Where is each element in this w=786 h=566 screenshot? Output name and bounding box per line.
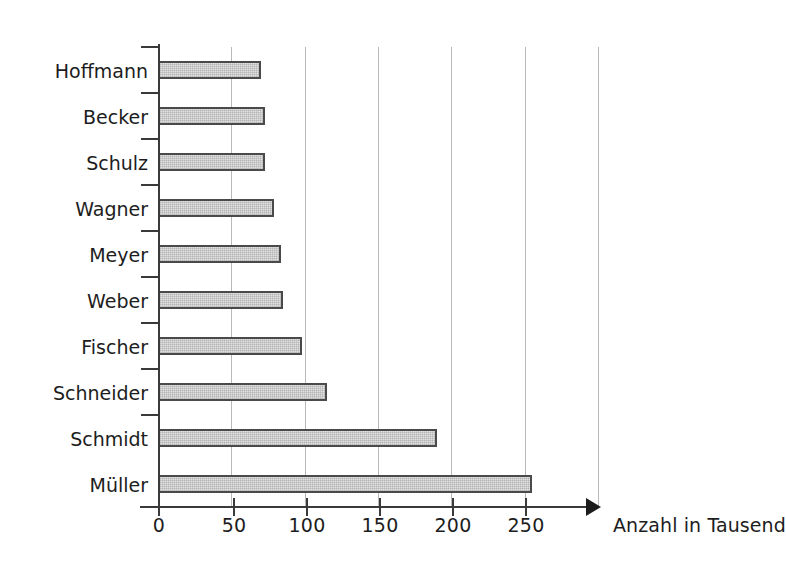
x-axis-tick-label-250: 250 bbox=[486, 514, 566, 536]
bar-row bbox=[158, 415, 598, 461]
bar-row bbox=[158, 369, 598, 415]
bar-row bbox=[158, 139, 598, 185]
bar-meyer bbox=[158, 245, 281, 263]
category-label-fischer: Fischer bbox=[0, 336, 148, 358]
bar-weber bbox=[158, 291, 283, 309]
category-label-meyer: Meyer bbox=[0, 244, 148, 266]
y-axis-tick bbox=[141, 92, 159, 94]
bar-schulz bbox=[158, 153, 265, 171]
bar-wagner bbox=[158, 199, 274, 217]
category-label-becker: Becker bbox=[0, 106, 148, 128]
category-label-weber: Weber bbox=[0, 290, 148, 312]
x-axis-arrow-icon bbox=[586, 498, 601, 516]
bar-schneider bbox=[158, 383, 327, 401]
category-label-mueller: Müller bbox=[0, 474, 148, 496]
y-axis-tick bbox=[141, 46, 159, 48]
bar-row bbox=[158, 185, 598, 231]
category-label-schmidt: Schmidt bbox=[0, 428, 148, 450]
gridline-300 bbox=[598, 47, 599, 507]
y-axis-tick bbox=[141, 414, 159, 416]
x-axis-title: Anzahl in Tausend bbox=[613, 514, 786, 536]
category-label-hoffmann: Hoffmann bbox=[0, 60, 148, 82]
bar-schmidt bbox=[158, 429, 437, 447]
bar-fischer bbox=[158, 337, 302, 355]
bar-row bbox=[158, 323, 598, 369]
category-label-schulz: Schulz bbox=[0, 152, 148, 174]
bar-row bbox=[158, 461, 598, 507]
bar-row bbox=[158, 231, 598, 277]
y-axis-tick bbox=[141, 184, 159, 186]
x-axis-tick-label-100: 100 bbox=[267, 514, 347, 536]
y-axis-tick bbox=[141, 138, 159, 140]
bar-row bbox=[158, 277, 598, 323]
category-label-schneider: Schneider bbox=[0, 382, 148, 404]
category-label-wagner: Wagner bbox=[0, 198, 148, 220]
bar-row bbox=[158, 93, 598, 139]
plot-area bbox=[158, 47, 598, 507]
y-axis-tick bbox=[141, 368, 159, 370]
bar-mueller bbox=[158, 475, 532, 493]
y-axis-tick bbox=[141, 322, 159, 324]
y-axis-tick bbox=[141, 276, 159, 278]
bar-becker bbox=[158, 107, 265, 125]
x-axis-line bbox=[140, 506, 588, 508]
bar-hoffmann bbox=[158, 61, 261, 79]
x-axis-tick-label-200: 200 bbox=[413, 514, 493, 536]
x-axis-tick-label-150: 150 bbox=[340, 514, 420, 536]
bar-row bbox=[158, 47, 598, 93]
y-axis-tick bbox=[141, 230, 159, 232]
x-axis-tick-label-50: 50 bbox=[194, 514, 274, 536]
x-axis-tick-label-0: 0 bbox=[119, 514, 199, 536]
